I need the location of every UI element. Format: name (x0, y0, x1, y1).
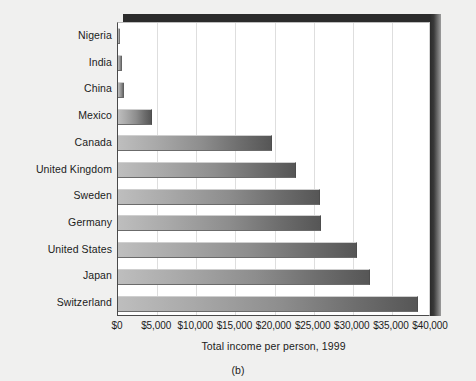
category-label-nigeria: Nigeria (0, 30, 112, 41)
bar-series (118, 23, 429, 315)
category-label-switzerland: Switzerland (0, 297, 112, 308)
category-label-sweden: Sweden (0, 190, 112, 201)
figure-caption: (b) (0, 364, 476, 376)
bar-canada (118, 135, 272, 151)
x-tick-label: $0 (112, 320, 123, 331)
x-tick-label: $10,000 (178, 320, 213, 331)
x-axis-title: Total income per person, 1999 (117, 340, 430, 352)
bar-mexico (118, 109, 152, 125)
bar-japan (118, 269, 370, 285)
x-tick-label: $15,000 (217, 320, 252, 331)
bar-sweden (118, 189, 320, 205)
x-tick-label: $5,000 (141, 320, 171, 331)
bar-china (118, 82, 124, 98)
bar-united-states (118, 242, 357, 258)
category-label-germany: Germany (0, 217, 112, 228)
category-label-united-kingdom: United Kingdom (0, 164, 112, 175)
category-label-china: China (0, 83, 112, 94)
bar-switzerland (118, 296, 418, 312)
category-label-japan: Japan (0, 270, 112, 281)
bar-india (118, 55, 122, 71)
x-tick-label: $40,000 (412, 320, 447, 331)
plot-frame-right-shadow (430, 14, 441, 316)
x-tick-label: $25,000 (295, 320, 330, 331)
x-tick-label: $30,000 (334, 320, 369, 331)
bar-nigeria (118, 28, 120, 44)
plot-frame-top-shadow (123, 14, 441, 22)
plot-area (117, 22, 430, 316)
x-tick-label: $35,000 (373, 320, 408, 331)
category-label-india: India (0, 57, 112, 68)
category-label-canada: Canada (0, 137, 112, 148)
category-axis-labels: NigeriaIndiaChinaMexicoCanadaUnited King… (0, 22, 112, 316)
category-label-united-states: United States (0, 244, 112, 255)
bar-united-kingdom (118, 162, 296, 178)
category-label-mexico: Mexico (0, 110, 112, 121)
value-axis-ticks: $0$5,000$10,000$15,000$20,000$25,000$30,… (0, 320, 476, 334)
x-tick-label: $20,000 (256, 320, 291, 331)
bar-germany (118, 215, 321, 231)
figure-panel: NigeriaIndiaChinaMexicoCanadaUnited King… (0, 0, 476, 381)
